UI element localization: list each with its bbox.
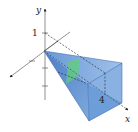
x-axis-label: x [125, 114, 130, 124]
height-label: 1 [32, 28, 38, 38]
y-axis-label: y [35, 5, 42, 15]
z-axis-back [44, 32, 70, 51]
length-label: 4 [99, 95, 105, 105]
solid-diagram: y 1 4 x [0, 0, 138, 132]
